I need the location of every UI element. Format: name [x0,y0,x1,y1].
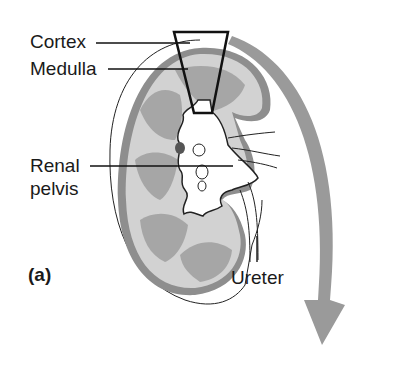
label-cortex: Cortex [30,31,86,53]
label-renal: Renal [30,155,80,177]
label-ureter: Ureter [231,267,284,289]
label-pelvis: pelvis [30,178,79,200]
kidney-diagram: Cortex Medulla Renal pelvis Ureter (a) [0,0,393,368]
label-medulla: Medulla [30,58,97,80]
panel-label: (a) [28,264,51,286]
